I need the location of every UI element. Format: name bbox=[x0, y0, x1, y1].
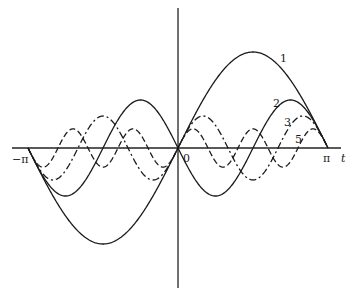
origin-label: 0 bbox=[183, 152, 190, 165]
pi-label: π bbox=[323, 152, 330, 165]
neg-pi-label: −π bbox=[12, 153, 28, 166]
curve-label-5: 5 bbox=[295, 133, 302, 146]
curve-label-3: 3 bbox=[284, 116, 291, 129]
x-axis-label: t bbox=[341, 152, 346, 165]
fourier-plot: −π 0 π t 1 2 3 5 bbox=[0, 0, 357, 295]
curve-label-1: 1 bbox=[280, 52, 287, 65]
curve-label-2: 2 bbox=[273, 97, 280, 110]
